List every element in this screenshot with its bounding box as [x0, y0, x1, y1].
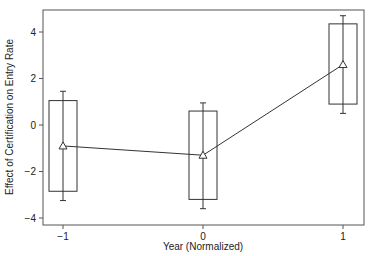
y-tick-label: 4 [30, 27, 36, 38]
triangle-marker [339, 61, 347, 68]
chart: −4−2024 −101 Year (Normalized) Effect of… [0, 0, 372, 256]
y-axis-label: Effect of Certification on Entry Rate [4, 39, 15, 195]
x-tick-label: 1 [340, 231, 346, 242]
y-tick-label: 0 [30, 120, 36, 131]
triangle-marker [59, 142, 67, 149]
whiskers [60, 16, 346, 209]
y-tick-label: 2 [30, 73, 36, 84]
x-axis-label: Year (Normalized) [163, 241, 243, 252]
x-tick-label: −1 [57, 231, 69, 242]
y-axis: −4−2024 [25, 27, 43, 224]
y-tick-label: −4 [25, 213, 37, 224]
y-tick-label: −2 [25, 166, 37, 177]
x-axis: −101 [57, 225, 346, 242]
